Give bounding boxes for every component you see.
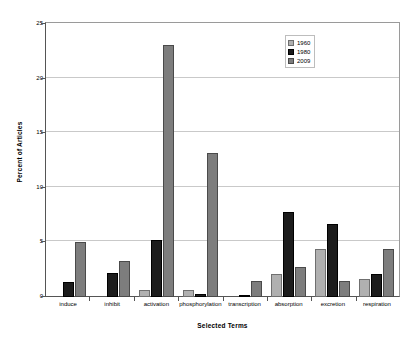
bar xyxy=(383,249,394,297)
legend-swatch-icon xyxy=(288,58,294,64)
x-axis-tick-label: respiration xyxy=(355,301,399,307)
bar-groups xyxy=(46,23,399,297)
x-axis-tick-label: activation xyxy=(134,301,178,307)
legend-swatch-icon xyxy=(288,40,294,46)
y-axis-tick-label: 15 xyxy=(19,129,43,135)
legend-swatch-icon xyxy=(288,49,294,55)
bar xyxy=(75,242,86,297)
legend-item: 2009 xyxy=(288,56,310,65)
y-axis-tick-label: 20 xyxy=(19,74,43,80)
x-axis-tick-labels: induceinhibitactivationphosphorylationtr… xyxy=(46,301,399,307)
bar xyxy=(207,153,218,297)
x-axis-tick-label: phosphorylation xyxy=(178,301,222,307)
x-axis-title: Selected Terms xyxy=(45,322,400,329)
bar-group xyxy=(90,23,134,297)
bar xyxy=(339,281,350,297)
bar-group xyxy=(223,23,267,297)
bar xyxy=(183,290,194,297)
bar-group xyxy=(134,23,178,297)
legend-label: 2009 xyxy=(297,58,310,64)
bar xyxy=(283,212,294,297)
bar xyxy=(315,249,326,297)
legend: 196019802009 xyxy=(285,35,315,68)
bar-group xyxy=(355,23,399,297)
bar xyxy=(359,279,370,297)
x-axis-tick-label: inhibit xyxy=(90,301,134,307)
y-axis-tick-label: 5 xyxy=(19,238,43,244)
bar-group xyxy=(178,23,222,297)
bar xyxy=(119,261,130,297)
bar xyxy=(139,290,150,297)
bar xyxy=(151,240,162,297)
y-axis-tick-label: 10 xyxy=(19,183,43,189)
bar xyxy=(239,295,250,297)
y-axis-tick-label: 25 xyxy=(19,20,43,26)
x-axis-tick-label: induce xyxy=(46,301,90,307)
bar xyxy=(63,282,74,297)
bar-chart-figure: Percent of Articles 0510152025 induceinh… xyxy=(0,0,414,344)
x-axis-tick-label: transcription xyxy=(223,301,267,307)
legend-label: 1960 xyxy=(297,40,310,46)
bar-group xyxy=(311,23,355,297)
bar-group xyxy=(46,23,90,297)
bar xyxy=(371,274,382,297)
legend-label: 1980 xyxy=(297,49,310,55)
bar xyxy=(195,294,206,297)
bar xyxy=(251,281,262,297)
bar xyxy=(271,274,282,297)
bar xyxy=(163,45,174,297)
y-axis-title: Percent of Articles xyxy=(14,7,26,297)
legend-item: 1960 xyxy=(288,38,310,47)
bar xyxy=(295,267,306,297)
legend-item: 1980 xyxy=(288,47,310,56)
y-axis-tick-label: 0 xyxy=(19,293,43,299)
x-axis-tick-label: excretion xyxy=(311,301,355,307)
bar xyxy=(327,224,338,297)
x-axis-tick-label: absorption xyxy=(267,301,311,307)
bar xyxy=(107,273,118,297)
